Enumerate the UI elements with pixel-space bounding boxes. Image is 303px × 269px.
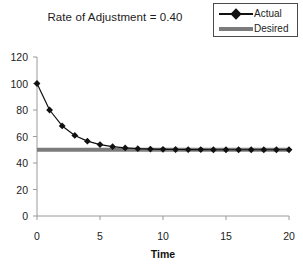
x-axis-title: Time xyxy=(103,248,223,260)
x-axis-ticks xyxy=(37,216,289,220)
chart-container: Rate of Adjustment = 0.40 Actual Desired… xyxy=(0,0,303,269)
data-point-marker xyxy=(260,146,267,153)
data-point-marker xyxy=(185,146,192,153)
data-point-marker xyxy=(235,146,242,153)
y-axis-tick-label: 40 xyxy=(0,158,28,169)
data-point-marker xyxy=(84,138,91,145)
y-axis-tick-label: 80 xyxy=(0,105,28,116)
data-point-marker xyxy=(197,146,204,153)
data-point-marker xyxy=(273,146,280,153)
data-point-marker xyxy=(286,146,293,153)
x-axis-tick-label: 10 xyxy=(148,231,178,242)
series-line-actual xyxy=(37,84,289,150)
series-markers-actual xyxy=(34,80,293,153)
data-point-marker xyxy=(223,146,230,153)
plot-area xyxy=(0,0,303,269)
y-axis-tick-label: 0 xyxy=(0,211,28,222)
x-axis-tick-label: 0 xyxy=(22,231,52,242)
y-axis-tick-label: 100 xyxy=(0,79,28,90)
x-axis-tick-label: 5 xyxy=(85,231,115,242)
data-point-marker xyxy=(248,146,255,153)
data-point-marker xyxy=(172,146,179,153)
data-point-marker xyxy=(34,80,41,87)
x-axis-tick-label: 15 xyxy=(211,231,241,242)
data-point-marker xyxy=(210,146,217,153)
y-axis-tick-label: 60 xyxy=(0,132,28,143)
y-axis-tick-label: 20 xyxy=(0,185,28,196)
y-axis-tick-label: 120 xyxy=(0,52,28,63)
data-point-marker xyxy=(97,141,104,148)
x-axis-tick-label: 20 xyxy=(274,231,303,242)
